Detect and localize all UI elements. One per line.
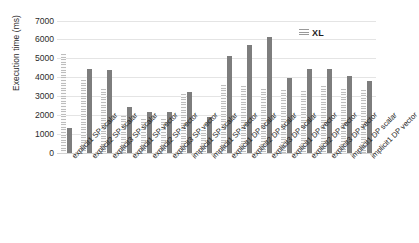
legend-label: XL: [312, 28, 324, 38]
y-axis-tick: 1000: [22, 130, 54, 139]
y-axis-tick: 0: [22, 149, 54, 158]
bar-group: [57, 21, 77, 153]
bar-xl: [61, 54, 66, 152]
y-axis-tick: 5000: [22, 54, 54, 63]
y-axis-tick: 2000: [22, 111, 54, 120]
y-axis-tick: 6000: [22, 35, 54, 44]
y-axis-title: Execution time (ms): [11, 0, 21, 113]
chart-legend: XL: [299, 28, 324, 38]
y-axis-tick: 7000: [22, 17, 54, 26]
y-axis-tick: 4000: [22, 73, 54, 82]
y-axis-tick-labels: 70006000500040003000200010000: [22, 16, 54, 154]
bar-series2: [67, 128, 72, 153]
y-axis-tick: 3000: [22, 92, 54, 101]
x-axis-tick-labels: explicit1 SP scalarexplicit2 SP scalarex…: [57, 154, 376, 243]
legend-swatch-icon: [299, 29, 309, 37]
